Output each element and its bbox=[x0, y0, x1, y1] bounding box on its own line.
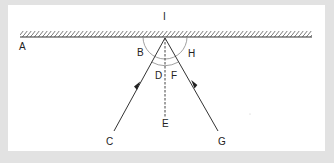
label-h: H bbox=[188, 48, 195, 59]
label-b: B bbox=[137, 47, 144, 58]
label-c: C bbox=[106, 136, 113, 147]
reflection-diagram: I A B H D F E C G bbox=[0, 0, 334, 163]
speck bbox=[250, 114, 251, 115]
label-a: A bbox=[19, 41, 26, 52]
mirror-hatching bbox=[20, 31, 312, 37]
label-d: D bbox=[155, 70, 162, 81]
label-g: G bbox=[218, 136, 226, 147]
reflected-arrow-icon bbox=[191, 80, 197, 89]
label-f: F bbox=[171, 70, 177, 81]
label-e: E bbox=[162, 118, 169, 129]
label-i: I bbox=[163, 11, 166, 22]
